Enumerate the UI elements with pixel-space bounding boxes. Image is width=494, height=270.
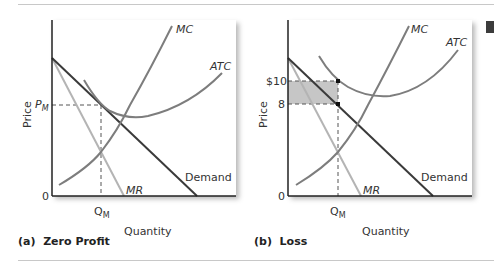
loss-area <box>288 81 338 104</box>
price-10-label: $10 <box>266 75 287 88</box>
demand-label: Demand <box>185 171 232 184</box>
qm-label: QM <box>330 205 346 220</box>
atc-label: ATC <box>445 36 467 49</box>
plot-area <box>288 20 472 196</box>
panel-b-caption: (b) Loss <box>254 235 308 248</box>
mc-label: MC <box>176 23 193 36</box>
origin-label: 0 <box>278 190 285 203</box>
demand-point <box>336 102 340 106</box>
mr-label: MR <box>363 184 380 197</box>
mc-label: MC <box>411 23 428 36</box>
x-axis-label: Quantity <box>362 225 410 238</box>
mr-label: MR <box>126 184 143 197</box>
y-axis-label: Price <box>257 101 270 128</box>
panel-a-zero-profit: MC ATC MR Demand PM 0 QM Quantity Price … <box>18 20 236 248</box>
demand-label: Demand <box>421 171 468 184</box>
price-8-label: 8 <box>278 98 285 111</box>
atc-label: ATC <box>209 60 231 73</box>
figure-canvas: MC ATC MR Demand PM 0 QM Quantity Price … <box>0 0 494 270</box>
y-axis-label: Price <box>21 101 34 128</box>
panel-a-caption: (a) Zero Profit <box>18 235 110 248</box>
panel-b-loss: MC ATC MR Demand $10 8 0 QM Quantity Pri… <box>254 20 472 248</box>
plot-area <box>52 20 236 196</box>
atc-point <box>336 79 340 83</box>
x-axis-label: Quantity <box>124 225 172 238</box>
origin-label: 0 <box>42 190 49 203</box>
qm-label: QM <box>94 205 110 220</box>
pm-label: PM <box>35 98 49 113</box>
